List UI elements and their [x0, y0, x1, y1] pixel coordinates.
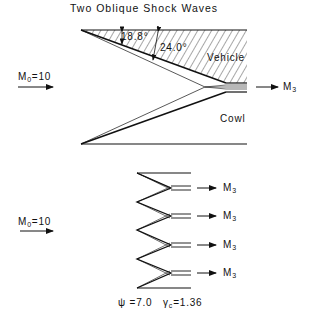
outflow-mach-3: M3 — [223, 239, 237, 251]
shock-wave-lower — [81, 87, 205, 144]
multi-module-inlet — [137, 173, 191, 288]
outflow-mach-4: M3 — [223, 267, 237, 279]
outflow-mach-2: M3 — [223, 210, 237, 222]
vehicle-label: Vehicle — [207, 52, 245, 63]
outflow-mach-top: M3 — [283, 81, 297, 93]
inflow-mach-top: M0=10 — [18, 71, 51, 83]
cowl-label: Cowl — [220, 113, 245, 124]
angle-label-24: 24.0° — [160, 42, 187, 53]
inflow-mach-bottom: M0=10 — [18, 216, 51, 228]
angle-label-18: 18.8° — [121, 31, 148, 42]
shock-diagram-graphic — [0, 0, 311, 322]
psi-parameter: ψ =7.0 — [118, 297, 152, 308]
slip-lines — [205, 85, 247, 89]
gamma-parameter: γc=1.36 — [163, 297, 202, 309]
outflow-mach-1: M3 — [223, 182, 237, 194]
